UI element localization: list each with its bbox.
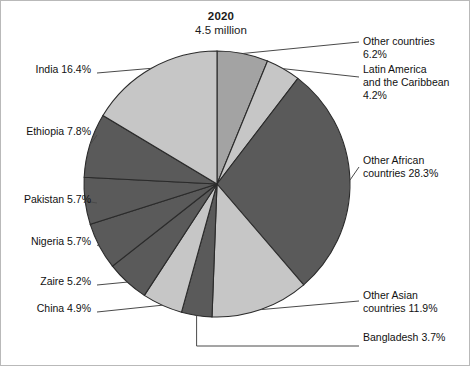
pie-slice-group <box>84 51 350 317</box>
callout-pakistan: Pakistan 5.7% <box>1 193 91 206</box>
callout-latin-america: Latin America and the Caribbean 4.2% <box>363 63 467 101</box>
leader-line-china <box>97 305 162 312</box>
callout-india: India 16.4% <box>1 63 91 76</box>
callout-other-african: Other African countries 28.3% <box>363 154 467 180</box>
callout-bangladesh: Bangladesh 3.7% <box>363 331 469 344</box>
callout-other-countries: Other countries 6.2% <box>363 35 467 61</box>
leader-line-india <box>97 68 152 73</box>
leader-line-zaire <box>97 282 127 285</box>
callout-ethiopia: Ethiopia 7.8% <box>1 125 91 138</box>
callout-other-asian: Other Asian countries 11.9% <box>363 289 467 315</box>
callout-zaire: Zaire 5.2% <box>1 275 91 288</box>
callout-nigeria: Nigeria 5.7% <box>1 235 91 248</box>
leader-line-bangladesh <box>197 315 359 346</box>
pie-chart-figure: 2020 4.5 million Other countries 6.2% La… <box>0 0 470 366</box>
callout-china: China 4.9% <box>1 302 91 315</box>
leader-line-other-countries <box>243 42 359 54</box>
leader-line-other-african <box>350 167 359 180</box>
